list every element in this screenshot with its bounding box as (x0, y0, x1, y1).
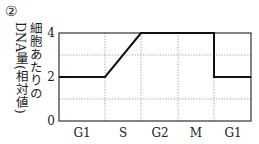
chart-plot (0, 0, 259, 144)
